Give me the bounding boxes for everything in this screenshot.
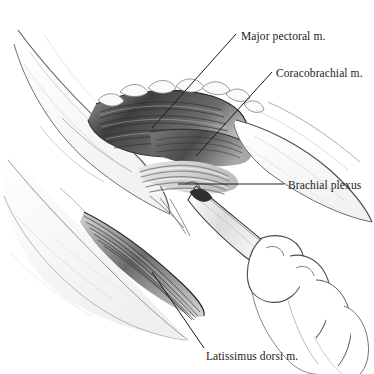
anatomy-figure: Major pectoral m. Coracobrachial m. Brac… — [0, 0, 374, 374]
label-major-pectoral: Major pectoral m. — [241, 30, 325, 42]
label-latissimus-dorsi: Latissimus dorsi m. — [206, 350, 298, 362]
label-brachial-plexus: Brachial plexus — [288, 179, 361, 191]
label-coracobrachial: Coracobrachial m. — [276, 67, 363, 79]
